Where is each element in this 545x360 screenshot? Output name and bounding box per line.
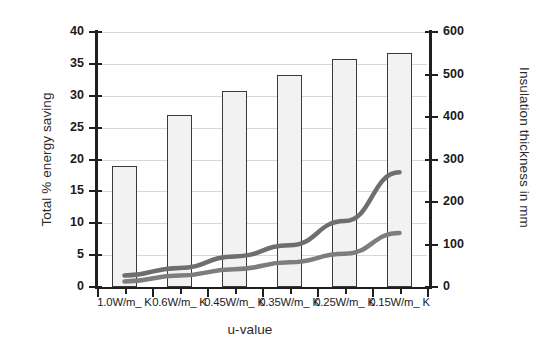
x-axis-tick-label: 0.15W/m_ K: [368, 296, 431, 308]
y-axis-left-tick: [89, 254, 102, 256]
x-axis-tick-label: 1.0W/m_ K: [93, 296, 156, 308]
x-axis-minor-tick: [345, 288, 347, 294]
y-axis-right-tick: [425, 159, 438, 161]
y-axis-label-right: Insulation thickness in mm: [517, 23, 532, 273]
y-axis-left-tick-label: 35: [50, 56, 84, 70]
y-axis-left-tick: [89, 190, 102, 192]
y-axis-left-tick-label: 25: [50, 120, 84, 134]
y-axis-right-tick-label: 100: [443, 237, 483, 251]
x-axis-tick-label: 0.35W/m_ K: [258, 296, 321, 308]
y-axis-left-tick-label: 15: [50, 183, 84, 197]
y-axis-left-tick: [89, 222, 102, 224]
x-axis-label: u-value: [70, 322, 430, 337]
y-axis-right-tick: [425, 31, 438, 33]
x-axis-minor-tick: [125, 288, 127, 294]
y-axis-left-tick: [89, 127, 102, 129]
x-axis-minor-tick: [290, 288, 292, 294]
y-axis-right-tick-label: 0: [443, 279, 483, 293]
line-series-overlay: [97, 32, 427, 287]
y-axis-left-tick: [89, 95, 102, 97]
line-series: [125, 172, 400, 275]
y-axis-right-tick-label: 400: [443, 109, 483, 123]
y-axis-right-tick-label: 200: [443, 194, 483, 208]
y-axis-left-tick-label: 0: [50, 279, 84, 293]
x-axis-minor-tick: [400, 288, 402, 294]
y-axis-left-tick-label: 20: [50, 152, 84, 166]
y-axis-left-tick: [89, 31, 102, 33]
chart-figure: Total % energy saving Insulation thickne…: [0, 0, 545, 360]
y-axis-left-tick: [89, 159, 102, 161]
y-axis-right-tick: [425, 116, 438, 118]
y-axis-right-tick: [425, 201, 438, 203]
y-axis-left-tick-label: 5: [50, 247, 84, 261]
y-axis-left-tick-label: 10: [50, 215, 84, 229]
x-axis-minor-tick: [235, 288, 237, 294]
y-axis-right-tick: [425, 74, 438, 76]
line-series: [125, 233, 400, 282]
y-axis-left-tick: [89, 63, 102, 65]
y-axis-right-tick-label: 500: [443, 67, 483, 81]
x-axis-minor-tick: [180, 288, 182, 294]
x-axis-tick-label: 0.25W/m_ K: [313, 296, 376, 308]
x-axis-tick-labels: 1.0W/m_ K0.6W/m_ K0.45W/m_ K0.35W/m_ K0.…: [0, 296, 545, 314]
y-axis-left-tick: [89, 286, 102, 288]
y-axis-right-tick: [425, 244, 438, 246]
y-axis-left-tick-label: 40: [50, 24, 84, 38]
y-axis-right-tick-label: 300: [443, 152, 483, 166]
y-axis-left-tick-label: 30: [50, 88, 84, 102]
y-axis-right-tick-label: 600: [443, 24, 483, 38]
x-axis-tick-label: 0.6W/m_ K: [148, 296, 211, 308]
x-axis-tick-label: 0.45W/m_ K: [203, 296, 266, 308]
